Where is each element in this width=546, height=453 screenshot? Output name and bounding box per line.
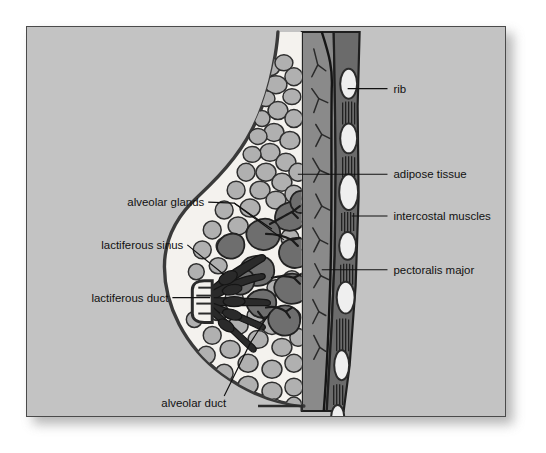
rib-cross-section [339,174,358,210]
rib-cross-section [339,232,356,260]
rib-cross-section [331,405,344,416]
lactiferous-sinus [223,297,245,307]
rib-cross-section [337,282,355,314]
rib-cross-section [334,350,349,380]
label-alveolar-duct: alveolar duct [161,397,227,409]
label-pectoralis-major: pectoralis major [393,264,474,276]
label-alveolar-glands: alveolar glands [127,196,204,208]
label-adipose-tissue: adipose tissue [393,168,466,180]
breast-anatomy-diagram: Anatomy of the lactating breast (sagitta… [27,27,505,416]
breast-group [164,32,312,415]
nipple-areola-group [192,281,212,323]
label-lactiferous-duct: lactiferous duct [91,292,169,304]
chest-wall-group [302,32,360,416]
illustration-plate: Anatomy of the lactating breast (sagitta… [26,26,506,417]
rib-cross-section [340,69,357,99]
label-rib: rib [393,83,406,95]
rib-cross-section [340,124,357,154]
chest-wall-inferior-line [258,406,302,411]
label-lactiferous-sinus: lactiferous sinus [101,239,183,251]
screenshot-root: Anatomy of the lactating breast (sagitta… [0,0,546,453]
label-intercostal-muscles: intercostal muscles [393,210,491,222]
alveolar-gland-lobe [217,234,244,259]
